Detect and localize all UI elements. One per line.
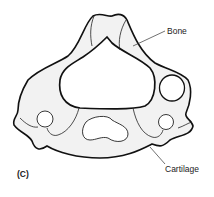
right-articular-process [160, 75, 185, 101]
vertebra-diagram: Bone Cartilage (C) [0, 0, 214, 197]
panel-label: (C) [17, 169, 29, 179]
bone-leader-line [133, 31, 165, 46]
left-transverse-foramen [37, 111, 53, 127]
right-transverse-foramen [159, 115, 174, 130]
cartilage-label: Cartilage [165, 164, 199, 174]
bone-label: Bone [167, 26, 187, 36]
cartilage-leader-line [150, 147, 165, 164]
